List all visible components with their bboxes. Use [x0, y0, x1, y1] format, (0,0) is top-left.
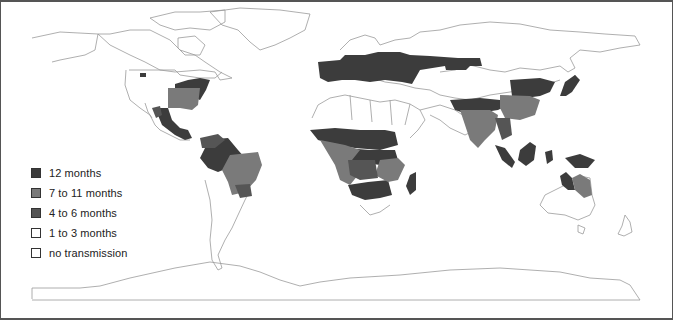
legend-label: no transmission: [49, 247, 128, 259]
legend-item-12-months: 12 months: [31, 163, 128, 183]
legend-swatch-4-to-6-months: [31, 208, 41, 218]
legend-swatch-7-to-11-months: [31, 188, 41, 198]
legend-item-4-to-6-months: 4 to 6 months: [31, 203, 128, 223]
north-america-outline: [32, 30, 232, 80]
legend-swatch-1-to-3-months: [31, 228, 41, 238]
legend-label: 12 months: [49, 167, 101, 179]
antarctica-outline: [32, 262, 640, 300]
legend-label: 4 to 6 months: [49, 207, 117, 219]
new-zealand-outline: [618, 215, 632, 236]
legend-item-1-to-3-months: 1 to 3 months: [31, 223, 128, 243]
legend-item-no-transmission: no transmission: [31, 243, 128, 263]
legend-swatch-12-months: [31, 168, 41, 178]
legend-label: 1 to 3 months: [49, 227, 117, 239]
legend-item-7-to-11-months: 7 to 11 months: [31, 183, 128, 203]
legend-swatch-no-transmission: [31, 248, 41, 258]
map-legend: 12 months 7 to 11 months 4 to 6 months 1…: [31, 163, 128, 263]
legend-label: 7 to 11 months: [49, 187, 122, 199]
